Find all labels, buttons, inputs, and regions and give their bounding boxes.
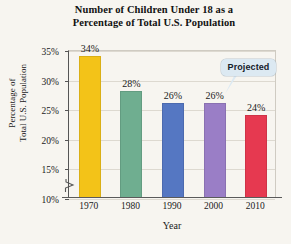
bar-value-label: 26% [164, 90, 182, 101]
x-axis-tick-label: 2000 [204, 201, 223, 211]
bar[interactable] [79, 56, 101, 198]
bar[interactable] [204, 103, 226, 198]
bar-slot: 26% [155, 51, 191, 198]
y-axis-title: Percentage of Total U.S. Population [7, 48, 37, 158]
y-axis-tick: 10% [65, 199, 69, 200]
x-axis-line [62, 197, 282, 198]
projected-callout-label: Projected [221, 59, 276, 76]
x-axis-title: Year [68, 220, 276, 231]
bar-value-label: 28% [122, 78, 140, 89]
projected-callout: Projected [221, 59, 276, 76]
bar[interactable] [120, 91, 142, 198]
y-axis-tick-label: 25% [42, 106, 59, 116]
y-axis-tick-label: 30% [42, 77, 59, 87]
y-axis-tick-label: 15% [42, 165, 59, 175]
callout-tail-icon [222, 74, 244, 96]
y-axis-tick-label: 10% [42, 195, 59, 205]
x-axis-tick-label: 2010 [246, 201, 265, 211]
chart-title-line-2: Percentage of Total U.S. Population [44, 17, 264, 30]
y-axis-title-line-2: Total U.S. Population [18, 48, 29, 158]
bar[interactable] [162, 103, 184, 198]
gridline [69, 199, 275, 200]
x-axis-tick-label: 1970 [79, 201, 98, 211]
bar-slot: 34% [72, 51, 108, 198]
bar[interactable] [245, 115, 267, 198]
bar-value-label: 34% [81, 43, 99, 54]
bar-value-label: 26% [205, 90, 223, 101]
bar-value-label: 24% [247, 102, 265, 113]
chart-title: Number of Children Under 18 as a Percent… [44, 4, 264, 29]
chart-figure: Number of Children Under 18 as a Percent… [0, 0, 291, 244]
x-axis-tick-label: 1990 [163, 201, 182, 211]
y-axis-tick-label: 20% [42, 136, 59, 146]
chart-title-line-1: Number of Children Under 18 as a [44, 4, 264, 17]
y-axis-title-line-1: Percentage of [7, 48, 18, 158]
y-axis-tick-label: 35% [42, 47, 59, 57]
x-axis-tick-label: 1980 [121, 201, 140, 211]
bar-slot: 28% [113, 51, 149, 198]
